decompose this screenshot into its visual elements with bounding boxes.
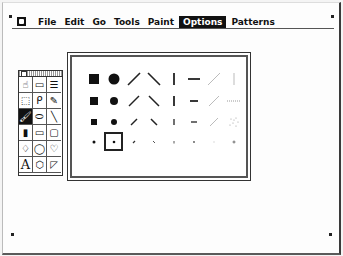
menu-options[interactable]: Options [179, 16, 226, 28]
brush-vbar-medium[interactable] [165, 92, 183, 110]
brush-hbar-large-icon [185, 70, 203, 88]
brush-slash-thin-small-icon [205, 113, 223, 131]
brush-slash-tiny[interactable] [125, 133, 143, 151]
tool-button[interactable]: ▭ [33, 77, 47, 93]
corner-marker-bottom-left [11, 233, 14, 236]
brush-vbar-small-icon [165, 113, 183, 131]
tool-select[interactable]: ⬚ [19, 93, 33, 109]
tool-brush[interactable]: 🖌 [19, 109, 33, 125]
brush-vbar-thin-large[interactable] [225, 70, 243, 88]
brush-hdots-medium[interactable] [225, 92, 243, 110]
brush-vbar-large-icon [165, 70, 183, 88]
brush-square-small-icon [85, 113, 103, 131]
apple-icon[interactable] [17, 17, 26, 26]
brush-slash-small[interactable] [125, 113, 143, 131]
menu-bar: FileEditGoToolsPaintOptionsPatterns [12, 15, 334, 29]
menu-patterns[interactable]: Patterns [228, 16, 277, 28]
curve-icon: ♡ [50, 144, 59, 154]
brush-vbar-medium-icon [165, 92, 183, 110]
brush-dot-1[interactable] [85, 133, 103, 151]
menu-paint[interactable]: Paint [145, 16, 177, 28]
brush-dot-faint-icon [205, 133, 223, 151]
tool-round-rect[interactable]: ▢ [47, 125, 61, 141]
polygon-icon: ◸ [50, 160, 58, 170]
palette-title-bar[interactable] [19, 71, 62, 77]
brush-plus-tiny-icon [225, 133, 243, 151]
tool-regular-polygon[interactable]: ⬡ [33, 157, 47, 173]
brush-backslash-tiny-icon [145, 133, 163, 151]
close-box-icon[interactable] [21, 71, 27, 77]
tool-rectangle[interactable]: ▭ [33, 125, 47, 141]
brush-square-large-icon [85, 70, 103, 88]
tool-grid: ☝▭☰⬚ᑭ✎🖌⬭╲▮▭▢♢◯♡A⬡◸ [19, 77, 62, 173]
brush-backslash-large[interactable] [145, 70, 163, 88]
brush-dot-2-icon [105, 133, 123, 151]
brush-backslash-tiny[interactable] [145, 133, 163, 151]
brush-vbar-tiny[interactable] [165, 133, 183, 151]
brush-slash-thin-large[interactable] [205, 70, 223, 88]
brush-hbar-tiny-icon [185, 133, 203, 151]
tool-polygon[interactable]: ◸ [47, 157, 61, 173]
tool-spray[interactable]: ▮ [19, 125, 33, 141]
brush-hbar-tiny[interactable] [185, 133, 203, 151]
menu-edit[interactable]: Edit [61, 16, 87, 28]
brush-backslash-large-icon [145, 70, 163, 88]
menu-tools[interactable]: Tools [111, 16, 143, 28]
brush-hdots-medium-icon [225, 92, 243, 110]
tool-pencil[interactable]: ✎ [47, 93, 61, 109]
brush-slash-medium-icon [125, 92, 143, 110]
bucket-icon: ♢ [21, 144, 30, 154]
brush-icon: 🖌 [19, 112, 32, 122]
spray-icon: ▮ [23, 128, 29, 138]
brush-dot-1-icon [85, 133, 103, 151]
tool-eraser[interactable]: ⬭ [33, 109, 47, 125]
tool-line[interactable]: ╲ [47, 109, 61, 125]
brush-slash-thin-small[interactable] [205, 113, 223, 131]
brush-plus-tiny[interactable] [225, 133, 243, 151]
brush-slash-large[interactable] [125, 70, 143, 88]
round-rect-icon: ▢ [49, 128, 58, 138]
brush-slash-thin-medium[interactable] [205, 92, 223, 110]
brush-slash-small-icon [125, 113, 143, 131]
tool-field[interactable]: ☰ [47, 77, 61, 93]
brush-hbar-medium-icon [185, 92, 203, 110]
lasso-icon: ᑭ [36, 96, 42, 106]
eraser-icon: ⬭ [35, 112, 44, 122]
brush-circle-large-icon [105, 70, 123, 88]
menu-file[interactable]: File [35, 16, 59, 28]
brush-slash-thin-medium-icon [205, 92, 223, 110]
brush-hbar-small[interactable] [185, 113, 203, 131]
tool-lasso[interactable]: ᑭ [33, 93, 47, 109]
menu-go[interactable]: Go [89, 16, 109, 28]
brush-vbar-small[interactable] [165, 113, 183, 131]
tools-palette[interactable]: ☝▭☰⬚ᑭ✎🖌⬭╲▮▭▢♢◯♡A⬡◸ [18, 70, 63, 176]
browse-hand-icon: ☝ [22, 80, 28, 90]
brush-dot-faint[interactable] [205, 133, 223, 151]
regular-polygon-icon: ⬡ [35, 160, 44, 170]
brush-dot-2[interactable] [104, 132, 123, 151]
brush-square-small[interactable] [85, 113, 103, 131]
brush-circle-small[interactable] [105, 113, 123, 131]
brush-backslash-medium[interactable] [145, 92, 163, 110]
brush-circle-medium[interactable] [105, 92, 123, 110]
pencil-icon: ✎ [50, 96, 58, 106]
brush-slash-large-icon [125, 70, 143, 88]
brush-hbar-large[interactable] [185, 70, 203, 88]
brush-square-large[interactable] [85, 70, 103, 88]
brush-slash-tiny-icon [125, 133, 143, 151]
rectangle-icon: ▭ [35, 128, 44, 138]
brush-spray-dots[interactable] [225, 113, 243, 131]
tool-text[interactable]: A [19, 157, 33, 173]
tool-bucket[interactable]: ♢ [19, 141, 33, 157]
brush-square-medium[interactable] [85, 92, 103, 110]
brush-slash-medium[interactable] [125, 92, 143, 110]
brush-backslash-small[interactable] [145, 113, 163, 131]
brush-hbar-medium[interactable] [185, 92, 203, 110]
select-icon: ⬚ [21, 96, 30, 106]
brush-hbar-small-icon [185, 113, 203, 131]
brush-vbar-large[interactable] [165, 70, 183, 88]
tool-oval[interactable]: ◯ [33, 141, 47, 157]
brush-circle-large[interactable] [105, 70, 123, 88]
tool-browse-hand[interactable]: ☝ [19, 77, 33, 93]
tool-curve[interactable]: ♡ [47, 141, 61, 157]
